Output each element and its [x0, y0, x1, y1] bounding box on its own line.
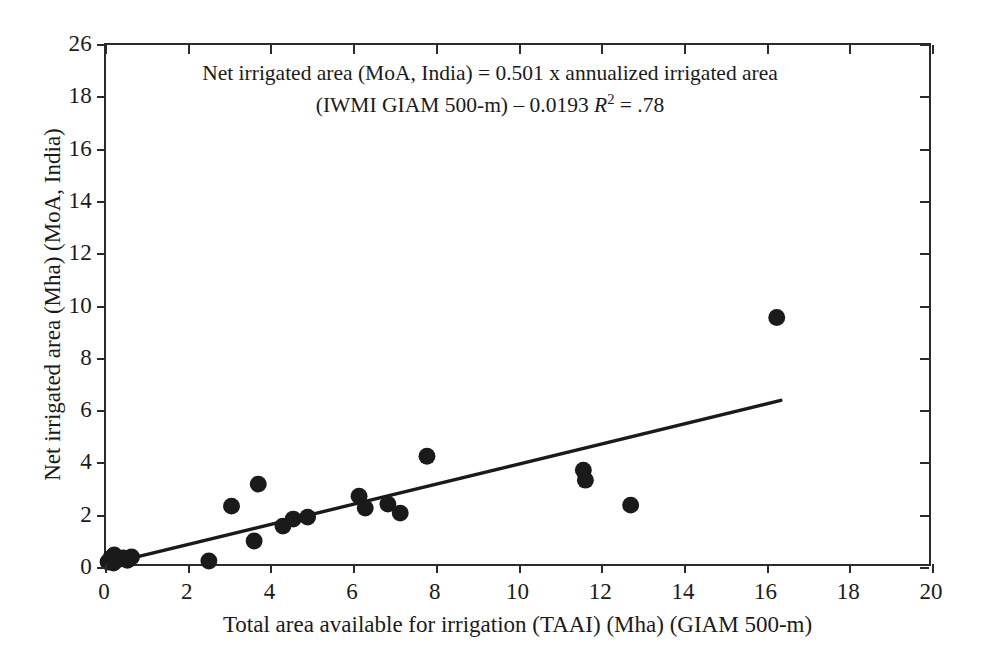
- data-point: [419, 448, 436, 465]
- x-tick-label: 8: [429, 580, 441, 603]
- y-tick-mark-right: [920, 358, 929, 360]
- x-tick-mark-top: [519, 45, 521, 54]
- x-tick-label: 0: [98, 580, 110, 603]
- figure-scatter-plot: 02468101214161826 Net irrigated area (Mh…: [0, 0, 983, 645]
- y-tick-mark: [97, 515, 106, 517]
- x-tick-label: 4: [264, 580, 276, 603]
- y-tick-label: 0: [80, 555, 92, 578]
- x-tick-label: 18: [837, 580, 860, 603]
- data-point: [299, 509, 316, 526]
- x-tick-label: 10: [506, 580, 529, 603]
- x-tick-mark: [519, 564, 521, 573]
- y-tick-mark: [97, 410, 106, 412]
- equation-line-1: Net irrigated area (MoA, India) = 0.501 …: [150, 58, 830, 89]
- equation-line-2: (IWMI GIAM 500-m) – 0.0193 R2 = .78: [150, 89, 830, 121]
- y-tick-mark-right: [920, 44, 929, 46]
- data-point: [246, 533, 263, 550]
- equation-line-2-suffix: = .78: [614, 93, 664, 117]
- y-tick-mark-right: [920, 462, 929, 464]
- x-tick-label: 16: [754, 580, 777, 603]
- x-tick-mark: [270, 564, 272, 573]
- data-point: [622, 497, 639, 514]
- x-tick-mark-top: [601, 45, 603, 54]
- y-tick-mark: [97, 201, 106, 203]
- x-tick-mark: [601, 564, 603, 573]
- data-point: [768, 309, 785, 326]
- x-tick-mark-top: [436, 45, 438, 54]
- x-tick-label: 6: [346, 580, 358, 603]
- data-point: [285, 511, 302, 528]
- x-tick-mark-top: [188, 45, 190, 54]
- equation-line-2-prefix: (IWMI GIAM 500-m) – 0.0193: [316, 93, 594, 117]
- x-axis-title: Total area available for irrigation (TAA…: [104, 612, 931, 638]
- y-tick-mark: [97, 358, 106, 360]
- x-tick-mark-top: [849, 45, 851, 54]
- x-tick-mark-top: [684, 45, 686, 54]
- y-tick-mark: [97, 149, 106, 151]
- x-tick-mark-top: [353, 45, 355, 54]
- x-axis-tick-labels: 02468101214161820: [104, 580, 931, 610]
- data-point: [392, 505, 409, 522]
- x-tick-mark: [105, 564, 107, 573]
- y-tick-mark: [97, 306, 106, 308]
- y-tick-mark-right: [920, 149, 929, 151]
- y-tick-label: 2: [80, 502, 92, 525]
- data-layer: [106, 45, 929, 564]
- y-tick-mark: [97, 96, 106, 98]
- x-tick-label: 2: [181, 580, 193, 603]
- data-point: [223, 498, 240, 515]
- data-point: [106, 547, 123, 564]
- y-axis-title: Net irrigated area (Mha) (MoA, India): [40, 43, 80, 566]
- scatter-points: [100, 309, 786, 571]
- x-tick-label: 20: [920, 580, 943, 603]
- y-tick-mark-right: [920, 306, 929, 308]
- x-tick-mark: [353, 564, 355, 573]
- y-tick-mark: [97, 462, 106, 464]
- y-tick-mark-right: [920, 96, 929, 98]
- x-tick-mark: [684, 564, 686, 573]
- x-tick-mark-top: [767, 45, 769, 54]
- data-point: [250, 476, 267, 493]
- y-tick-label: 6: [80, 398, 92, 421]
- y-tick-label: 8: [80, 345, 92, 368]
- x-tick-label: 12: [589, 580, 612, 603]
- x-tick-mark: [849, 564, 851, 573]
- y-tick-mark: [97, 253, 106, 255]
- x-tick-mark: [932, 564, 934, 573]
- y-tick-mark-right: [920, 515, 929, 517]
- data-point: [200, 553, 217, 570]
- x-tick-label: 14: [671, 580, 694, 603]
- x-tick-mark-top: [270, 45, 272, 54]
- regression-line: [106, 400, 781, 564]
- r-squared-symbol: R2: [594, 93, 614, 117]
- y-tick-mark-right: [920, 410, 929, 412]
- x-tick-mark: [767, 564, 769, 573]
- y-tick-mark-right: [920, 201, 929, 203]
- data-point: [357, 500, 374, 517]
- x-tick-mark-top: [105, 45, 107, 54]
- x-tick-mark-top: [932, 45, 934, 54]
- r-symbol: R: [594, 93, 607, 117]
- y-tick-mark-right: [920, 253, 929, 255]
- x-tick-mark: [436, 564, 438, 573]
- x-tick-mark: [188, 564, 190, 573]
- equation-annotation: Net irrigated area (MoA, India) = 0.501 …: [150, 58, 830, 122]
- y-tick-mark-right: [920, 567, 929, 569]
- y-tick-label: 4: [80, 450, 92, 473]
- data-point: [123, 549, 140, 566]
- data-point: [577, 472, 594, 489]
